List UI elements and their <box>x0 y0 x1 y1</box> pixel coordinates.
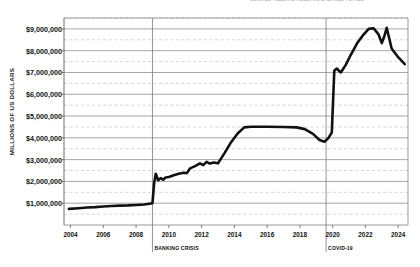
plot-frame <box>64 18 408 225</box>
event-annotations <box>152 18 326 252</box>
gridlines <box>64 18 408 214</box>
chart-container: SOURCE FEDERAL RESERVE BALANCE TOTALS MI… <box>0 0 420 267</box>
x-tick-label: 2024 <box>378 231 418 238</box>
annotation-label-covid-19: COVID-19 <box>326 245 353 251</box>
annotation-label-banking-crisis: BANKING CRISIS <box>152 245 198 251</box>
plot-area <box>0 0 420 267</box>
